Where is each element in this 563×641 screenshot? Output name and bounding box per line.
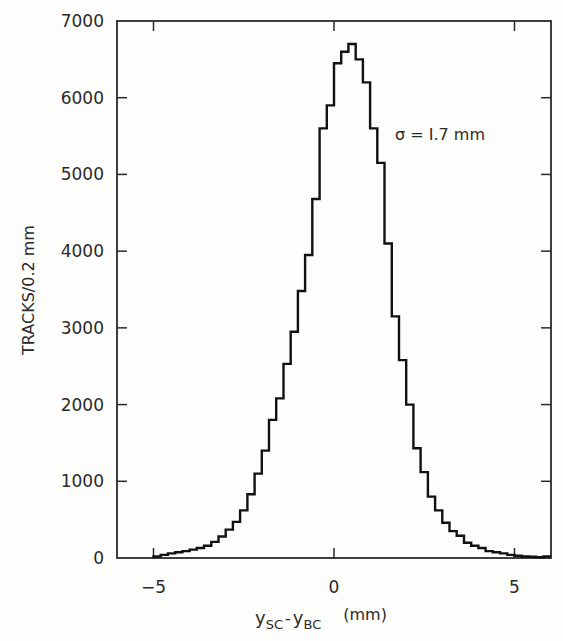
histogram-step-line xyxy=(154,44,551,558)
y-tick-label: 6000 xyxy=(61,88,104,108)
x-tick-label: 5 xyxy=(509,577,520,597)
sigma-annotation: σ = I.7 mm xyxy=(395,125,485,144)
y-axis-title: TRACKS/0.2 mm xyxy=(19,225,38,356)
x-axis: −505 xyxy=(141,21,520,597)
y-tick-label: 0 xyxy=(93,548,104,568)
y-tick-label: 4000 xyxy=(61,241,104,261)
x-axis-title: ySC-yBC(mm) xyxy=(255,605,387,632)
y-tick-label: 1000 xyxy=(61,471,104,491)
y-tick-label: 7000 xyxy=(61,11,104,31)
y-tick-label: 5000 xyxy=(61,164,104,184)
histogram-chart: 01000200030004000500060007000 −505 TRACK… xyxy=(0,0,563,641)
x-tick-label: −5 xyxy=(141,577,166,597)
x-tick-label: 0 xyxy=(329,577,340,597)
y-tick-label: 3000 xyxy=(61,318,104,338)
y-tick-label: 2000 xyxy=(61,395,104,415)
svg-text:ySC-yBC(mm): ySC-yBC(mm) xyxy=(255,605,387,632)
